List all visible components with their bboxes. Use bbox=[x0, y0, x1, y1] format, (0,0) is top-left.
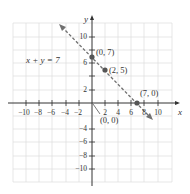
x-tick-label: 2 bbox=[103, 108, 107, 117]
line-arrow-upper-icon bbox=[59, 24, 66, 31]
y-tick-label: −8 bbox=[79, 151, 87, 160]
y-tick-label: 6 bbox=[83, 58, 87, 67]
x-tick-label: −8 bbox=[34, 108, 42, 117]
x-tick-label: −10 bbox=[18, 108, 30, 117]
point-7-0 bbox=[134, 100, 139, 105]
x-tick-label: −6 bbox=[47, 108, 55, 117]
x-tick-label: 8 bbox=[142, 108, 146, 117]
equation-label: x + y = 7 bbox=[25, 55, 60, 65]
x-axis-arrow-icon bbox=[175, 101, 180, 105]
origin-pointer bbox=[93, 104, 100, 114]
x-tick-label: 10 bbox=[154, 108, 162, 117]
axes bbox=[8, 18, 178, 186]
point-2-5 bbox=[102, 67, 107, 72]
coordinate-plane: y x x + y = 7 (0, 7) (2, 5) (7, 0) (0, 0… bbox=[0, 0, 190, 194]
point-0-7 bbox=[89, 54, 94, 59]
x-tick-label: −2 bbox=[74, 108, 82, 117]
y-tick-label: −4 bbox=[79, 124, 87, 133]
y-tick-label: 2 bbox=[83, 85, 87, 94]
x-tick-label: −4 bbox=[61, 108, 69, 117]
y-axis-arrow-icon bbox=[90, 15, 94, 20]
point-label-2-5: (2, 5) bbox=[109, 65, 128, 75]
y-tick-label: −6 bbox=[79, 137, 87, 146]
y-tick-label: −10 bbox=[75, 164, 87, 173]
x-tick-label: 4 bbox=[116, 108, 120, 117]
y-tick-label: 10 bbox=[80, 32, 88, 41]
point-label-7-0: (7, 0) bbox=[140, 88, 159, 98]
y-axis-label: y bbox=[83, 14, 88, 24]
x-axis-label: x bbox=[177, 107, 182, 117]
point-label-0-7: (0, 7) bbox=[96, 47, 115, 57]
x-tick-label: 6 bbox=[129, 108, 133, 117]
